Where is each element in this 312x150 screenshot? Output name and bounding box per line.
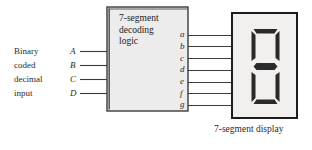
input-description-line-2: coded (14, 60, 36, 71)
segment-g (254, 63, 278, 70)
block-text-line-1: 7-segment (119, 13, 159, 25)
input-description-line-3: decimal (14, 74, 43, 85)
decoding-logic-block-text: 7-segment decoding logic (119, 13, 159, 48)
output-signal-label-d: d (180, 64, 185, 75)
output-signal-label-e: e (180, 76, 184, 87)
output-wire-group (188, 36, 232, 106)
block-text-line-2: decoding (119, 25, 159, 37)
segment-b (276, 31, 280, 61)
input-description-line-1: Binary (14, 46, 39, 57)
segment-a (254, 29, 278, 34)
display-caption: 7-segment display (214, 124, 283, 134)
output-signal-label-c: c (180, 53, 184, 64)
output-signal-label-b: b (180, 41, 185, 52)
seven-segment-display (232, 13, 297, 118)
output-signal-label-a: a (180, 29, 185, 40)
input-signal-label-d: D (70, 88, 77, 99)
input-description-line-4: input (14, 88, 33, 99)
input-signal-label-c: C (70, 74, 76, 85)
input-signal-label-a: A (70, 46, 76, 57)
block-diagram: Binary coded decimal input A B C D 7-seg… (0, 0, 312, 150)
segment-d (254, 100, 278, 105)
block-text-line-3: logic (119, 36, 159, 48)
output-signal-label-g: g (180, 99, 185, 110)
segment-e (252, 72, 256, 102)
segment-f (252, 31, 256, 61)
segment-c (276, 72, 280, 102)
input-wire-group (80, 52, 107, 94)
input-signal-label-b: B (70, 60, 76, 71)
output-signal-label-f: f (180, 88, 183, 99)
